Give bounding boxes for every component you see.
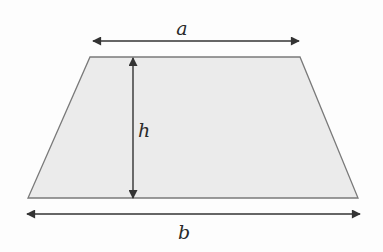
label-h: h (138, 119, 150, 141)
label-b: b (178, 221, 190, 243)
trapezoid-diagram: a h b (0, 0, 383, 252)
label-a: a (176, 17, 187, 39)
trapezoid-shape (28, 57, 358, 198)
